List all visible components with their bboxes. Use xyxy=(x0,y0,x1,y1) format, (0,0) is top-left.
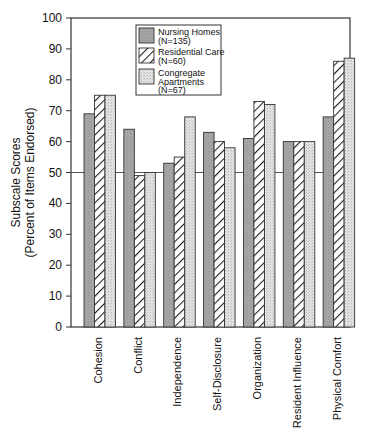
bar xyxy=(164,163,175,327)
legend-swatch xyxy=(139,48,154,63)
y-tick-label: 50 xyxy=(49,166,63,180)
bar xyxy=(95,95,106,327)
x-category-label: Organization xyxy=(251,337,263,399)
bar xyxy=(264,105,275,327)
bar xyxy=(254,101,265,327)
bar xyxy=(105,95,116,327)
bar xyxy=(134,176,145,327)
bar xyxy=(334,61,345,327)
y-axis-title: Subscale Scores(Percent of Items Endorse… xyxy=(9,107,37,257)
legend-label: (N=67) xyxy=(158,85,186,95)
bar xyxy=(283,142,294,327)
bar xyxy=(304,142,315,327)
bar xyxy=(145,173,156,328)
y-tick-label: 30 xyxy=(49,227,63,241)
x-category-label: Self-Disclosure xyxy=(211,337,223,411)
bar xyxy=(124,129,135,327)
y-tick-label: 0 xyxy=(55,320,62,334)
y-tick-label: 90 xyxy=(49,42,63,56)
x-category-label: Cohesion xyxy=(92,337,104,383)
legend: Nursing Homes(N=135)Residential Care(N=6… xyxy=(136,25,225,95)
y-axis-title-line: (Percent of Items Endorsed) xyxy=(23,107,37,257)
bar xyxy=(294,142,305,327)
bar xyxy=(204,132,215,327)
bar xyxy=(84,114,95,327)
bar xyxy=(243,139,254,327)
x-category-label: Resident Influence xyxy=(291,337,303,428)
legend-swatch xyxy=(139,69,154,84)
y-tick-label: 70 xyxy=(49,104,63,118)
bar xyxy=(214,142,225,327)
y-tick-label: 60 xyxy=(49,135,63,149)
y-axis-title-line: Subscale Scores xyxy=(9,137,23,227)
x-category-label: Physical Comfort xyxy=(331,337,343,420)
y-tick-label: 10 xyxy=(49,289,63,303)
x-category-label: Conflict xyxy=(132,337,144,374)
bar-chart: Subscale Scores(Percent of Items Endorse… xyxy=(0,0,391,433)
legend-label: (N=60) xyxy=(158,56,186,66)
y-tick-label: 80 xyxy=(49,73,63,87)
bar xyxy=(185,117,196,327)
y-tick-label: 100 xyxy=(42,11,62,25)
x-category-label: Independence xyxy=(171,337,183,407)
legend-label: (N=135) xyxy=(158,36,191,46)
bar xyxy=(174,157,185,327)
y-tick-label: 20 xyxy=(49,258,63,272)
bar xyxy=(344,58,355,327)
legend-swatch xyxy=(139,28,154,43)
bar xyxy=(225,148,236,327)
bar xyxy=(323,117,334,327)
y-tick-label: 40 xyxy=(49,196,63,210)
